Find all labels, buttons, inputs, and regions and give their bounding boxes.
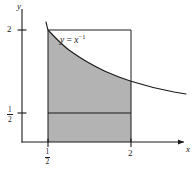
fraction-denominator: 2 — [7, 116, 13, 124]
y-tick-label-one-half: 1 2 — [7, 106, 13, 124]
x-axis-arrowhead — [178, 140, 184, 145]
curve-equation-label: y = x−1 — [60, 34, 85, 46]
curve-label-equals: = — [64, 35, 74, 45]
y-tick-label-2: 2 — [7, 25, 12, 34]
y-axis-label: y — [17, 2, 21, 11]
fraction-numerator: 1 — [7, 106, 13, 114]
fraction-denominator: 2 — [45, 158, 51, 166]
fraction-numerator: 1 — [45, 148, 51, 156]
function-plot — [0, 0, 196, 169]
fraction-one-half: 1 2 — [7, 106, 13, 124]
shaded-lower-rectangle — [48, 113, 131, 142]
fraction-one-half: 1 2 — [45, 148, 51, 166]
x-tick-label-2: 2 — [128, 149, 133, 158]
x-axis-label: x — [186, 145, 190, 154]
curve-label-exponent: −1 — [79, 33, 86, 40]
figure-canvas: y x 2 1 2 1 2 2 y = x−1 — [0, 0, 196, 169]
x-tick-label-one-half: 1 2 — [45, 148, 51, 166]
